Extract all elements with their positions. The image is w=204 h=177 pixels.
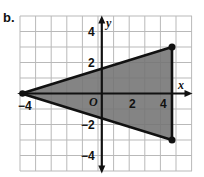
x-tick-label-4: 4 xyxy=(160,97,167,111)
x-tick-label-2: 2 xyxy=(129,97,136,111)
vertex-point-top-right xyxy=(169,44,176,51)
graph-figure: b. xyxy=(0,0,204,177)
y-axis-label: y xyxy=(104,16,112,30)
y-tick-label-neg2: −2 xyxy=(81,118,95,132)
y-tick-label-neg4: −4 xyxy=(81,149,95,163)
y-tick-label-2: 2 xyxy=(88,56,95,70)
x-tick-label-neg4: −4 xyxy=(18,99,32,113)
x-axis-label: x xyxy=(177,78,184,92)
coordinate-plane: x y O −4 2 4 4 2 −2 −4 xyxy=(0,0,204,177)
origin-label: O xyxy=(89,95,98,109)
y-tick-label-4: 4 xyxy=(88,25,95,39)
vertex-point-left xyxy=(19,90,25,96)
vertex-point-bottom-right xyxy=(169,137,176,144)
